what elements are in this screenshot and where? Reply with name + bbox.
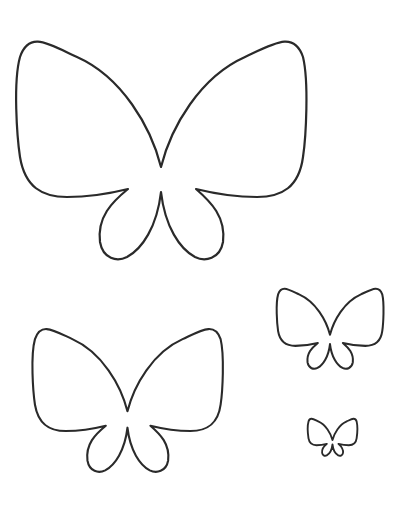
butterfly-small: [277, 289, 384, 369]
butterfly-large: [16, 42, 306, 260]
butterfly-tiny: [308, 419, 357, 456]
butterfly-medium: [32, 329, 222, 472]
butterfly-template-canvas: [0, 0, 406, 506]
